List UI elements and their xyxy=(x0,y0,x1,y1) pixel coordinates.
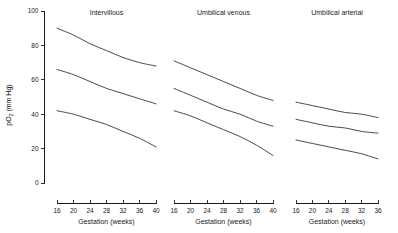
panel-3: Umbilical arterial162024283236Gestation … xyxy=(292,9,382,226)
svg-text:pO2 (mm Hg): pO2 (mm Hg) xyxy=(5,84,14,125)
panel-title: Umbilical venous xyxy=(197,9,250,16)
y-tick-label: 20 xyxy=(31,145,39,152)
x-tick-label: 36 xyxy=(253,207,261,214)
centile-curve xyxy=(174,111,273,156)
x-axis-title: Gestation (weeks) xyxy=(195,218,251,226)
panel-title: Intervillous xyxy=(90,9,124,16)
x-tick-label: 28 xyxy=(103,207,111,214)
centile-curve xyxy=(57,69,156,103)
x-tick-label: 36 xyxy=(374,207,382,214)
centile-curve xyxy=(296,119,378,133)
centile-curve xyxy=(296,102,378,117)
x-tick-label: 32 xyxy=(236,207,244,214)
panel-1: Intervillous16202428323640Gestation (wee… xyxy=(53,9,160,226)
y-tick-label: 60 xyxy=(31,76,39,83)
centile-curve xyxy=(57,28,156,66)
x-tick-label: 20 xyxy=(70,207,78,214)
y-tick-label: 100 xyxy=(28,7,39,14)
x-tick-label: 36 xyxy=(136,207,144,214)
chart-figure: 020406080100 pO2 (mm Hg) Intervillous162… xyxy=(0,0,398,233)
panel-title: Umbilical arterial xyxy=(311,9,363,16)
x-tick-label: 16 xyxy=(53,207,61,214)
x-tick-label: 24 xyxy=(86,207,94,214)
x-tick-label: 40 xyxy=(152,207,160,214)
y-tick-label: 0 xyxy=(35,179,39,186)
x-tick-label: 20 xyxy=(309,207,317,214)
centile-curve xyxy=(57,111,156,147)
x-tick-label: 32 xyxy=(119,207,127,214)
x-tick-label: 20 xyxy=(187,207,195,214)
x-tick-label: 24 xyxy=(325,207,333,214)
x-tick-label: 28 xyxy=(342,207,350,214)
y-axis: 020406080100 xyxy=(28,7,45,186)
centile-curve xyxy=(296,140,378,159)
x-tick-label: 28 xyxy=(220,207,228,214)
x-tick-label: 16 xyxy=(292,207,300,214)
plot-canvas: 020406080100 pO2 (mm Hg) Intervillous162… xyxy=(0,0,398,233)
x-axis-title: Gestation (weeks) xyxy=(309,218,365,226)
x-tick-label: 40 xyxy=(269,207,277,214)
y-tick-label: 80 xyxy=(31,42,39,49)
y-tick-label: 40 xyxy=(31,111,39,118)
x-axis-title: Gestation (weeks) xyxy=(78,218,134,226)
x-tick-label: 16 xyxy=(170,207,178,214)
x-tick-label: 24 xyxy=(203,207,211,214)
panel-2: Umbilical venous16202428323640Gestation … xyxy=(170,9,277,226)
panels: Intervillous16202428323640Gestation (wee… xyxy=(53,9,382,226)
y-axis-title: pO2 (mm Hg) xyxy=(5,84,14,125)
x-tick-label: 32 xyxy=(358,207,366,214)
centile-curve xyxy=(174,88,273,126)
y-axis-title-unit: (mm Hg) xyxy=(5,84,13,113)
